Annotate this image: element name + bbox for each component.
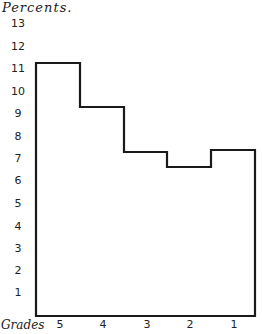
- x-tick-4: 4: [93, 318, 113, 331]
- histogram-outline: [36, 63, 255, 316]
- x-tick-3: 3: [137, 318, 157, 331]
- x-tick-2: 2: [180, 318, 200, 331]
- x-tick-5: 5: [50, 318, 70, 331]
- x-axis-label: Grades: [1, 318, 44, 332]
- x-tick-1: 1: [224, 318, 244, 331]
- histogram-plot: [0, 0, 262, 334]
